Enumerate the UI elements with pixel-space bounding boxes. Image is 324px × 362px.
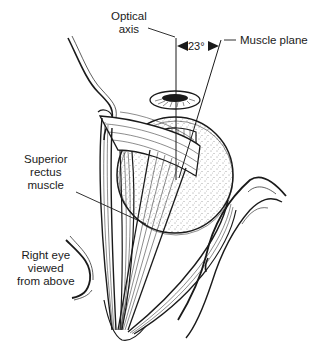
superior-rectus-label: Superior rectus muscle <box>24 153 67 192</box>
optical-axis-label: Optical axis <box>111 10 147 36</box>
view-orientation-label: Right eye viewed from above <box>17 249 75 288</box>
cornea-iris <box>150 91 200 109</box>
angle-label: 23° <box>188 40 205 53</box>
muscle-plane-label: Muscle plane <box>240 34 308 47</box>
